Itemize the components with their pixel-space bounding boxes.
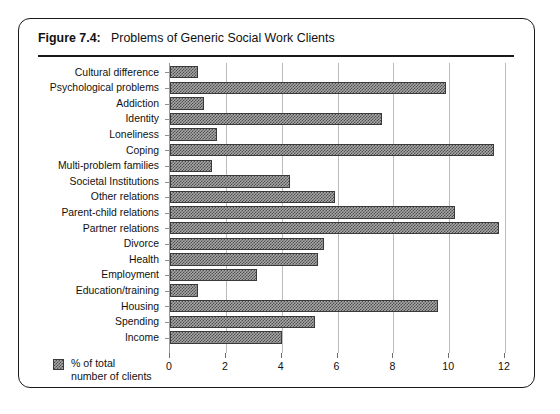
x-axis-tick-label: 12 <box>489 360 519 372</box>
category-axis-label: Housing <box>121 299 159 315</box>
bar-row <box>170 267 511 283</box>
bar <box>170 191 335 203</box>
figure-title: Figure 7.4: Problems of Generic Social W… <box>38 31 508 45</box>
bar <box>170 175 290 187</box>
bar <box>170 269 257 281</box>
bar-row <box>170 330 511 346</box>
category-axis-label: Spending <box>115 314 159 330</box>
bar-row <box>170 158 511 174</box>
x-axis-tick-label: 6 <box>322 360 352 372</box>
x-axis-tick <box>337 353 338 358</box>
bar <box>170 97 204 109</box>
bar <box>170 331 282 343</box>
category-axis-label: Parent-child relations <box>61 205 159 221</box>
bar-row <box>170 189 511 205</box>
x-axis-tick-label: 8 <box>377 360 407 372</box>
category-axis-label: Multi-problem families <box>58 158 159 174</box>
bar-row <box>170 143 511 159</box>
legend-label-line1: % of total <box>71 357 152 370</box>
bar <box>170 253 318 265</box>
x-axis-tick <box>281 353 282 358</box>
x-axis: 024681012 <box>169 353 510 383</box>
bar-row <box>170 283 511 299</box>
bar-row <box>170 65 511 81</box>
bar <box>170 238 324 250</box>
bar <box>170 160 212 172</box>
legend: % of total number of clients <box>53 357 203 383</box>
bar-row <box>170 127 511 143</box>
category-axis: Cultural differencePsychological problem… <box>19 63 165 353</box>
category-axis-label: Divorce <box>124 236 159 252</box>
bar-row <box>170 174 511 190</box>
x-axis-tick-label: 2 <box>210 360 240 372</box>
bar <box>170 128 217 140</box>
bar-row <box>170 221 511 237</box>
bar-row <box>170 252 511 268</box>
x-axis-tick-label: 4 <box>266 360 296 372</box>
bar <box>170 144 494 156</box>
bar <box>170 300 438 312</box>
bar-row <box>170 205 511 221</box>
bar-row <box>170 111 511 127</box>
hatched-swatch-icon <box>53 359 64 370</box>
bar-row <box>170 299 511 315</box>
bar <box>170 206 455 218</box>
bar-row <box>170 236 511 252</box>
legend-label: % of total number of clients <box>71 357 152 383</box>
category-axis-label: Income <box>125 330 159 346</box>
category-axis-label: Other relations <box>91 189 159 205</box>
chart-plot: Cultural differencePsychological problem… <box>19 63 534 385</box>
figure-card: Figure 7.4: Problems of Generic Social W… <box>18 18 535 388</box>
category-axis-label: Cultural difference <box>75 65 159 81</box>
category-axis-label: Psychological problems <box>50 80 159 96</box>
x-axis-tick <box>504 353 505 358</box>
category-axis-label: Loneliness <box>109 127 159 143</box>
bar <box>170 284 198 296</box>
bar <box>170 113 382 125</box>
bar-row <box>170 80 511 96</box>
bar <box>170 222 499 234</box>
category-axis-label: Coping <box>126 143 159 159</box>
title-divider <box>38 55 514 57</box>
x-axis-tick <box>225 353 226 358</box>
figure-number-label: Figure 7.4: <box>38 31 101 45</box>
category-axis-label: Employment <box>101 267 159 283</box>
x-axis-tick <box>448 353 449 358</box>
category-axis-label: Partner relations <box>83 221 159 237</box>
x-axis-tick-label: 10 <box>433 360 463 372</box>
bar-row <box>170 314 511 330</box>
category-axis-label: Identity <box>125 111 159 127</box>
category-axis-label: Health <box>129 252 159 268</box>
category-axis-label: Addiction <box>116 96 159 112</box>
bar <box>170 82 446 94</box>
bar <box>170 66 198 78</box>
figure-title-text: Problems of Generic Social Work Clients <box>111 31 335 45</box>
category-axis-label: Education/training <box>76 283 159 299</box>
plot-area <box>169 63 510 353</box>
x-axis-tick <box>392 353 393 358</box>
legend-label-line2: number of clients <box>71 370 152 383</box>
bar <box>170 316 315 328</box>
bar-row <box>170 96 511 112</box>
category-axis-label: Societal Institutions <box>69 174 159 190</box>
